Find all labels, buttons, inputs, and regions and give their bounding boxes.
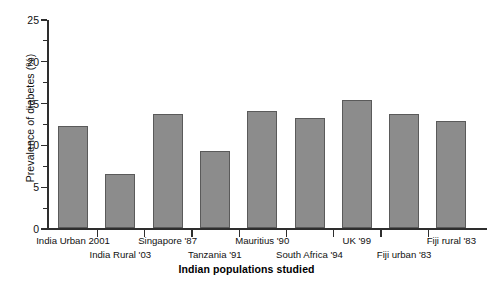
y-tick-label: 20 <box>27 57 39 68</box>
bar <box>200 151 230 228</box>
bar <box>389 114 419 228</box>
bar <box>342 100 372 228</box>
bar <box>105 174 135 228</box>
bar <box>295 118 325 228</box>
y-tick-mark <box>41 103 47 104</box>
y-tick-mark <box>41 61 47 62</box>
bar <box>247 111 277 228</box>
x-tick-label: Mauritius '90 <box>235 236 289 246</box>
x-tick-label: India Rural '03 <box>90 250 152 260</box>
y-tick-label: 25 <box>27 15 39 26</box>
x-tick-label: Fiji rural '83 <box>427 236 476 246</box>
y-minor-tick-mark <box>43 40 47 41</box>
x-axis-line <box>47 228 487 230</box>
x-tick-mark <box>380 229 381 237</box>
bar <box>153 114 183 228</box>
y-minor-tick-mark <box>43 208 47 209</box>
bar <box>436 121 466 228</box>
y-tick-mark <box>41 19 47 20</box>
y-tick-mark <box>41 187 47 188</box>
x-tick-mark <box>333 229 334 237</box>
y-tick-mark <box>41 145 47 146</box>
y-tick-mark <box>41 228 47 229</box>
y-tick-label: 10 <box>27 140 39 151</box>
y-minor-tick-mark <box>43 82 47 83</box>
x-axis-title: Indian populations studied <box>0 263 493 275</box>
x-tick-label: UK '99 <box>343 236 372 246</box>
bar <box>58 126 88 228</box>
plot-area: 0510152025 <box>47 20 487 229</box>
y-tick-label: 0 <box>33 224 39 235</box>
x-tick-label: Fiji urban '83 <box>377 250 432 260</box>
x-tick-label: South Africa '94 <box>276 250 343 260</box>
chart-figure: Prevalence of diabetes (%) 0510152025 In… <box>0 0 493 281</box>
y-minor-tick-mark <box>43 166 47 167</box>
y-tick-label: 5 <box>33 182 39 193</box>
y-axis-line <box>47 20 49 229</box>
x-tick-label: India Urban 2001 <box>36 236 110 246</box>
y-minor-tick-mark <box>43 124 47 125</box>
y-tick-label: 15 <box>27 98 39 109</box>
x-tick-label: Singapore '87 <box>138 236 197 246</box>
x-tick-label: Tanzania '91 <box>188 250 242 260</box>
